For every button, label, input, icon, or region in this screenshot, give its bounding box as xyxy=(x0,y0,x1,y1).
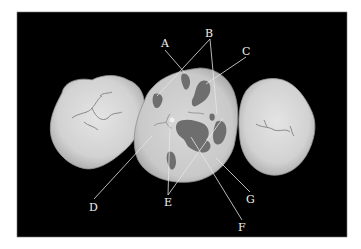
label-e: E xyxy=(164,196,172,209)
dental-diagram: A B C D E F G xyxy=(0,0,361,249)
cusp-tip xyxy=(170,118,175,123)
label-c: C xyxy=(242,45,250,58)
lesion-small xyxy=(209,113,214,120)
label-d: D xyxy=(89,201,98,214)
label-a: A xyxy=(160,37,170,50)
label-b: B xyxy=(205,27,213,40)
label-g: G xyxy=(246,193,255,206)
label-f: F xyxy=(238,221,246,234)
